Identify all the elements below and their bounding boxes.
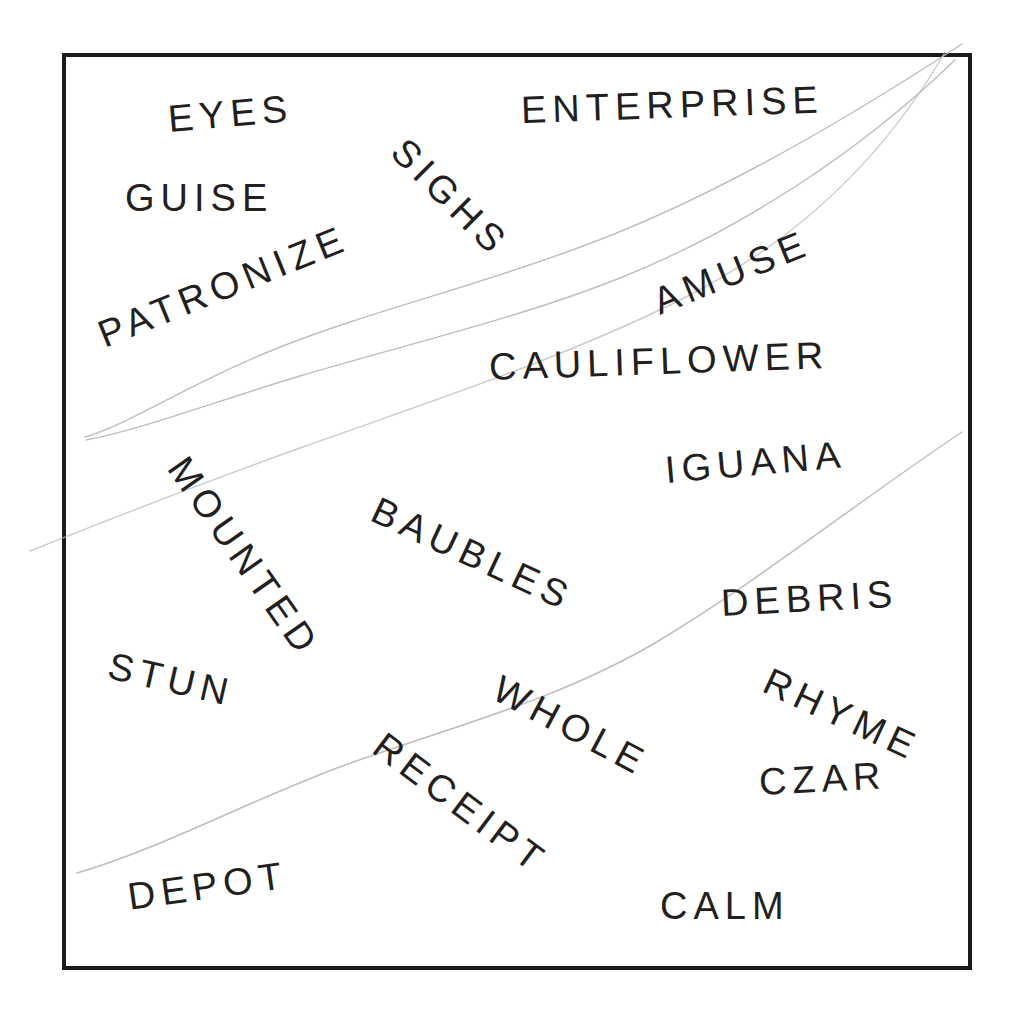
word-receipt: RECEIPT bbox=[367, 726, 555, 881]
word-eyes: EYES bbox=[166, 89, 294, 138]
word-amuse: AMUSE bbox=[648, 224, 815, 321]
word-patronize: PATRONIZE bbox=[93, 219, 354, 354]
word-enterprise: ENTERPRISE bbox=[520, 80, 824, 129]
word-sighs: SIGHS bbox=[385, 132, 517, 264]
word-baubles: BAUBLES bbox=[366, 491, 579, 617]
word-rhyme: RHYME bbox=[758, 662, 926, 767]
word-depot: DEPOT bbox=[125, 856, 290, 916]
word-iguana: IGUANA bbox=[663, 435, 847, 489]
word-czar: CZAR bbox=[758, 756, 887, 801]
word-collection: EYESENTERPRISEGUISESIGHSPATRONIZEAMUSECA… bbox=[0, 0, 1025, 1012]
word-mounted: MOUNTED bbox=[161, 450, 326, 664]
word-calm: CALM bbox=[660, 887, 790, 925]
page-canvas: EYESENTERPRISEGUISESIGHSPATRONIZEAMUSECA… bbox=[0, 0, 1025, 1012]
word-whole: WHOLE bbox=[487, 669, 654, 782]
word-guise: GUISE bbox=[125, 179, 273, 217]
word-stun: STUN bbox=[105, 646, 238, 712]
word-cauliflower: CAULIFLOWER bbox=[488, 336, 830, 386]
word-debris: DEBRIS bbox=[720, 575, 899, 622]
